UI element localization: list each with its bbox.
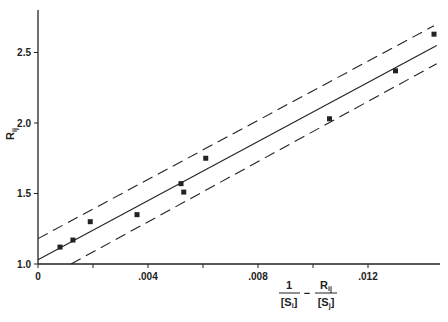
x-tick-label: 0 <box>35 271 41 282</box>
confidence-line <box>38 26 434 239</box>
data-point <box>181 190 186 195</box>
x-tick-label: .004 <box>138 271 158 282</box>
data-point <box>179 181 184 186</box>
confidence-line <box>71 64 437 264</box>
svg-text:1: 1 <box>286 279 292 291</box>
x-axis-label: 1 [Si] − Rij [Sj] <box>279 279 337 310</box>
data-point <box>393 68 398 73</box>
data-point <box>58 245 63 250</box>
svg-text:Rij: Rij <box>4 128 19 140</box>
data-point <box>203 156 208 161</box>
y-axis-label: Rij <box>4 128 19 140</box>
x-tick-label: .008 <box>248 271 268 282</box>
data-point <box>135 212 140 217</box>
tick-labels: 1.01.52.02.50.004.008.012 <box>17 47 378 282</box>
data-points <box>58 32 437 250</box>
data-point <box>70 238 75 243</box>
x-tick-label: .012 <box>358 271 378 282</box>
y-tick-label: 1.0 <box>17 259 31 270</box>
chart: 1.01.52.02.50.004.008.012 Rij 1 [Si] − R… <box>0 0 448 322</box>
y-tick-label: 2.0 <box>17 118 31 129</box>
svg-text:Rij: Rij <box>320 279 332 293</box>
data-point <box>432 32 437 37</box>
y-tick-label: 1.5 <box>17 188 31 199</box>
svg-text:−: − <box>304 287 310 299</box>
fit-lines <box>38 26 437 264</box>
regression-line <box>38 45 437 259</box>
svg-text:[Sj]: [Sj] <box>318 296 335 310</box>
data-point <box>327 116 332 121</box>
data-point <box>88 219 93 224</box>
svg-text:[Si]: [Si] <box>281 296 298 309</box>
y-tick-label: 2.5 <box>17 47 31 58</box>
